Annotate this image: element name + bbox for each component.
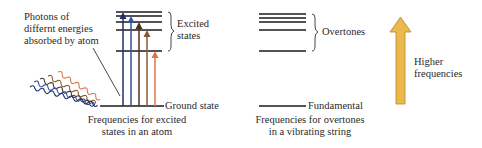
overtones-brace [312, 14, 318, 51]
photon-label-line-1: Photons of [24, 11, 99, 23]
photon-label: Photons of differnt energies absorbed by… [24, 11, 99, 47]
transition-arrow-4 [144, 30, 151, 106]
photon-wave-3 [39, 77, 95, 107]
higher-frequencies-arrow-icon [390, 17, 411, 104]
higher-frequencies-line-2: frequencies [414, 68, 462, 80]
excited-states-brace [168, 12, 174, 51]
transition-arrow-3 [136, 22, 143, 106]
transition-arrows [120, 12, 159, 106]
photon-wave-4 [33, 80, 95, 107]
string-caption: Frequencies for overtones in a vibrating… [245, 114, 375, 138]
atom-caption: Frequencies for excited states in an ato… [82, 114, 192, 138]
photon-label-pointer [93, 48, 120, 96]
excited-states-label: Excited states [177, 18, 209, 42]
atom-caption-line-1: Frequencies for excited [82, 114, 192, 126]
transition-arrow-5 [152, 51, 159, 106]
ground-state-label: Ground state [165, 100, 219, 112]
transition-arrow-1 [120, 12, 127, 106]
incoming-photons [29, 70, 101, 107]
photon-label-line-3: absorbed by atom [24, 35, 99, 47]
string-caption-line-2: in a vibrating string [245, 126, 375, 138]
excited-label-line-2: states [177, 30, 209, 42]
fundamental-label: Fundamental [308, 100, 363, 112]
higher-frequencies-label: Higher frequencies [414, 56, 462, 80]
atom-caption-line-2: states in an atom [82, 126, 192, 138]
string-caption-line-1: Frequencies for overtones [245, 114, 375, 126]
excited-label-line-1: Excited [177, 18, 209, 30]
higher-frequencies-line-1: Higher [414, 56, 462, 68]
photon-wave-5 [29, 85, 98, 107]
photon-label-line-2: differnt energies [24, 23, 99, 35]
string-levels [259, 14, 306, 106]
overtones-label: Overtones [322, 26, 365, 38]
